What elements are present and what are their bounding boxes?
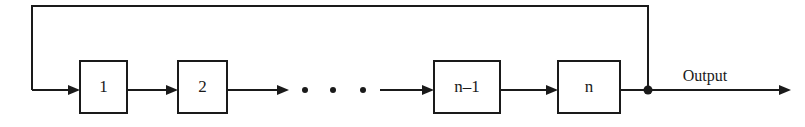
output-label: Output xyxy=(683,67,728,85)
stage-block-stage-n: n xyxy=(558,61,620,113)
stage-label: 1 xyxy=(99,77,108,96)
ellipsis-dot-3 xyxy=(360,87,366,93)
stage-block-stage-n-1: n–1 xyxy=(434,61,500,113)
stage-label: 2 xyxy=(198,77,207,96)
block-diagram-figure: 12n–1n Output xyxy=(0,0,805,127)
stage-block-stage-2: 2 xyxy=(178,61,227,113)
ellipsis-dot-2 xyxy=(330,87,336,93)
stage-label: n–1 xyxy=(454,77,480,96)
diagram-canvas: 12n–1n Output xyxy=(0,0,805,127)
stage-label: n xyxy=(585,77,594,96)
stage-block-stage-1: 1 xyxy=(80,61,127,113)
ellipsis-dot-1 xyxy=(302,87,308,93)
output-junction-dot xyxy=(644,86,653,95)
